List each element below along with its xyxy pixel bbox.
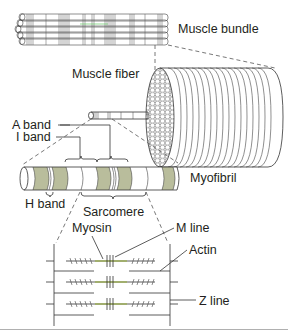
sarcomere-brace: [81, 192, 146, 199]
muscle-fiber-illustration: [146, 68, 283, 167]
label-myofibril: Myofibril: [190, 171, 237, 185]
myosin-leader: [92, 236, 103, 259]
myofibril-illustration: [20, 167, 179, 190]
label-sarcomere: Sarcomere: [83, 205, 144, 219]
label-myosin: Myosin: [72, 221, 112, 235]
label-muscle-bundle: Muscle bundle: [178, 22, 259, 36]
filament-row: [54, 276, 170, 293]
filament-row: [54, 255, 170, 271]
muscle-bundle-illustration: [15, 14, 168, 46]
zoom-line: [168, 45, 275, 68]
band-braces: [65, 156, 128, 162]
muscle-structure-diagram: Muscle bundle Muscle fiber: [0, 0, 293, 334]
sarcomere-detail: [46, 228, 196, 326]
label-h-band: H band: [25, 197, 65, 211]
label-i-band: I band: [16, 130, 51, 144]
actin-leader: [160, 250, 187, 271]
label-actin: Actin: [189, 243, 217, 257]
label-z-line: Z line: [199, 294, 230, 308]
label-muscle-fiber: Muscle fiber: [72, 67, 139, 81]
m-line-leader: [115, 228, 174, 257]
myofibril-rod: [89, 112, 149, 119]
a-band-leader: [60, 125, 110, 159]
label-m-line: M line: [176, 221, 209, 235]
filament-row: [54, 298, 170, 315]
